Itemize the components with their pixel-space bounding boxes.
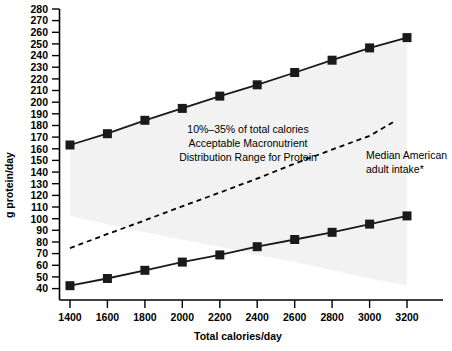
data-point-marker (178, 104, 187, 113)
data-point-marker (365, 220, 374, 229)
x-tick-label: 1400 (58, 311, 82, 323)
data-point-marker (103, 274, 112, 283)
y-tick-label: 150 (30, 154, 48, 166)
x-tick-label: 1600 (96, 311, 120, 323)
data-point-marker (328, 56, 337, 65)
y-tick-label: 50 (36, 271, 48, 283)
amdr-annotation-line1: 10%–35% of total calories (187, 123, 308, 135)
data-point-marker (140, 116, 149, 125)
data-point-marker (403, 33, 412, 42)
x-tick-label: 2200 (208, 311, 232, 323)
amdr-annotation-line3: Distribution Range for Protein (179, 151, 317, 163)
x-axis-title: Total calories/day (194, 330, 282, 342)
y-tick-label: 220 (30, 73, 48, 85)
protein-requirement-chart: 280 270 260 250 240 230 220 210 200 190 … (0, 0, 452, 351)
data-point-marker (253, 242, 262, 251)
x-tick-label: 2800 (320, 311, 344, 323)
y-tick-label: 40 (36, 282, 48, 294)
x-tick-label: 2400 (246, 311, 270, 323)
x-tick-label: 3200 (395, 311, 419, 323)
y-tick-label: 170 (30, 131, 48, 143)
y-tick-label: 130 (30, 178, 48, 190)
amdr-annotation-line2: Acceptable Macronutrient (188, 137, 307, 149)
y-tick-label: 120 (30, 189, 48, 201)
y-tick-label: 140 (30, 166, 48, 178)
y-tick-label: 210 (30, 84, 48, 96)
y-tick-label: 60 (36, 259, 48, 271)
y-tick-label: 270 (30, 14, 48, 26)
y-tick-label: 240 (30, 49, 48, 61)
data-point-marker (215, 92, 224, 101)
chart-svg: 280 270 260 250 240 230 220 210 200 190 … (0, 0, 452, 351)
y-tick-label: 230 (30, 61, 48, 73)
y-tick-label: 180 (30, 119, 48, 131)
x-axis-tick-labels: 1400 1600 1800 2000 2200 2400 2600 2800 … (58, 311, 419, 323)
y-tick-label: 260 (30, 26, 48, 38)
data-point-marker (66, 141, 75, 150)
data-point-marker (178, 258, 187, 267)
x-tick-label: 1800 (133, 311, 157, 323)
y-tick-label: 280 (30, 3, 48, 15)
data-point-marker (140, 266, 149, 275)
median-annotation-line1: Median American (366, 149, 447, 161)
y-tick-label: 90 (36, 224, 48, 236)
y-tick-label: 160 (30, 143, 48, 155)
y-tick-label: 250 (30, 38, 48, 50)
data-point-marker (66, 281, 75, 290)
data-point-marker (290, 68, 299, 77)
y-axis-title: g protein/day (3, 152, 15, 218)
data-point-marker (365, 43, 374, 52)
amdr-annotation: 10%–35% of total calories Acceptable Mac… (179, 123, 317, 163)
y-tick-label: 190 (30, 108, 48, 120)
y-tick-label: 80 (36, 236, 48, 248)
data-point-marker (328, 228, 337, 237)
y-tick-label: 70 (36, 247, 48, 259)
y-axis-tick-labels: 280 270 260 250 240 230 220 210 200 190 … (30, 3, 48, 295)
y-tick-label: 110 (31, 201, 48, 213)
x-tick-label: 2000 (171, 311, 195, 323)
data-point-marker (253, 80, 262, 89)
y-tick-label: 100 (30, 213, 48, 225)
data-point-marker (290, 235, 299, 244)
y-tick-label: 200 (30, 96, 48, 108)
data-point-marker (403, 211, 412, 220)
median-annotation-line2: adult intake* (366, 163, 424, 175)
data-point-marker (215, 250, 224, 259)
x-tick-label: 2600 (283, 311, 307, 323)
x-tick-label: 3000 (358, 311, 382, 323)
x-axis-ticks (70, 300, 407, 308)
data-point-marker (103, 129, 112, 138)
y-axis-ticks (52, 9, 60, 289)
